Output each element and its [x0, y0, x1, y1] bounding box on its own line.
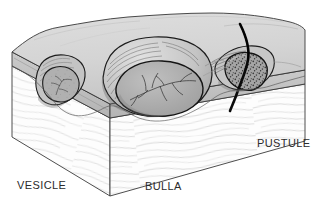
- bulla-lesion: [102, 37, 212, 117]
- label-pustule: PUSTULE: [257, 137, 311, 149]
- label-bulla: BULLA: [145, 180, 182, 192]
- skin-lesion-diagram: VESICLE BULLA PUSTULE: [0, 0, 328, 215]
- label-vesicle: VESICLE: [17, 179, 66, 191]
